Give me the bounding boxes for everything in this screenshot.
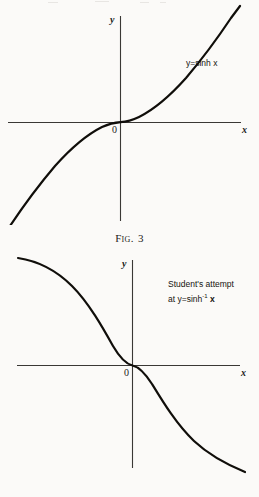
curve-label-line-2: at y=sinh-1 x	[168, 290, 234, 305]
figure-4: y x 0 Student's attempt at y=sinh-1 x Fi…	[0, 250, 259, 497]
figure-3-plot	[0, 0, 259, 225]
curve-label-text: y=sinh x	[186, 58, 217, 68]
x-axis-label: x	[242, 124, 247, 135]
y-axis-label: y	[110, 14, 114, 25]
figure-3: y x 0 y=sinh x Fig. 3	[0, 0, 259, 250]
curve-label-line-2-pre: at y=sinh	[168, 294, 202, 304]
figure-3-caption-word: Fig.	[115, 232, 134, 244]
curve-label-sinh: y=sinh x	[186, 57, 217, 69]
x-axis-label: x	[241, 367, 246, 378]
curve-label-line-2-post: x	[210, 294, 215, 304]
figure-3-caption: Fig. 3	[0, 228, 259, 246]
scanned-page: y x 0 y=sinh x Fig. 3 y x 0 Student's	[0, 0, 259, 497]
curve-label-superscript: -1	[202, 293, 207, 299]
figure-3-caption-number: 3	[138, 232, 144, 244]
y-axis-label: y	[122, 258, 126, 269]
origin-label: 0	[124, 367, 129, 378]
curve-label-line-1: Student's attempt	[168, 278, 234, 290]
curve-label-student-attempt: Student's attempt at y=sinh-1 x	[168, 278, 234, 305]
sinh-curve	[10, 6, 240, 225]
origin-label: 0	[112, 124, 117, 135]
